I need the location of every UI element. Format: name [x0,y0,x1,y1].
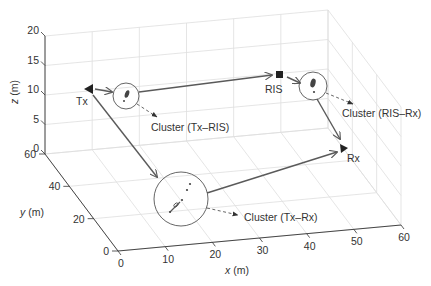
z-tick-label: 10 [27,83,39,95]
x-tick-label: 60 [398,231,410,243]
y-tick-label: 0 [103,245,109,257]
x-tick-label: 10 [162,253,174,265]
link-ris-to-cluster-ris-rx [287,77,300,83]
floor-grid-line [139,145,212,242]
node-tx: Tx [76,84,93,107]
z-tick [41,121,45,125]
axes [39,32,404,255]
scatterer-point [169,211,171,213]
side-wall-grid-line [328,10,401,107]
scatterer-point [181,199,183,201]
x-tick [212,242,215,246]
x-tick-label: 0 [118,257,124,269]
x-tick-label: 30 [257,244,269,256]
x-tick-label: 40 [304,240,316,252]
cluster-tx-ris: Cluster (Tx–RIS) [113,83,229,133]
cluster-scatterers [124,90,130,99]
cluster-scatterers [173,202,179,208]
x-tick-label: 20 [209,248,221,260]
floor-grid-line [69,160,352,186]
z-tick-label: 20 [27,24,39,36]
z-tick [41,91,45,95]
z-tick [41,32,45,36]
cluster-leader-line [207,208,238,215]
tx-label: Tx [76,95,88,107]
y-tick-label: 40 [49,180,61,192]
y-tick-label: 20 [73,213,85,225]
cluster-leader-line [326,93,353,104]
cluster-label: Cluster (Tx–Rx) [244,211,318,223]
x-tick [354,229,357,233]
scatterer-point [186,189,188,191]
z-tick-label: 15 [27,54,39,66]
3d-channel-diagram: 0102030405060020406005101520 x (m) y (m)… [0,0,431,286]
z-axis-label: z (m) [8,80,20,105]
side-wall-grid-line [328,40,401,137]
x-tick [260,238,263,242]
link-cluster-tx-ris-to-ris [139,75,272,92]
ris-label: RIS [265,83,283,95]
x-axis-label: x (m) [224,264,249,276]
floor-grid-line [187,141,260,238]
x-tick [165,247,168,251]
ris-marker-icon [276,71,283,78]
x-tick-label: 50 [351,235,363,247]
scatterer-point [313,91,315,93]
tx-marker-icon [84,84,93,94]
cluster-label: Cluster (Tx–RIS) [151,121,229,133]
rx-label: Rx [347,152,361,164]
cluster-tx-rx: Cluster (Tx–Rx) [154,172,318,226]
link-cluster-tx-rx-to-rx [207,152,337,193]
y-axis-label: y (m) [19,206,44,218]
scatterer-point [189,183,191,185]
scatterer-point [123,100,125,102]
y-axis-line [45,154,118,251]
propagation-paths [93,75,340,193]
z-tick-label: 5 [33,113,39,125]
x-tick [307,234,310,238]
x-tick [118,251,121,255]
z-tick [41,62,45,66]
cluster-label: Cluster (RIS–Rx) [342,107,421,119]
cluster-scatterers [309,78,316,88]
cluster-ris-rx: Cluster (RIS–Rx) [299,72,421,119]
z-tick-label: 0 [33,142,39,154]
link-tx-to-cluster-tx-rx [93,95,157,177]
x-tick [401,225,404,229]
link-cluster-ris-rx-to-rx [317,99,340,139]
side-wall-grid-line [328,128,401,225]
z-tick [41,150,45,154]
cluster-boundary [154,172,208,226]
